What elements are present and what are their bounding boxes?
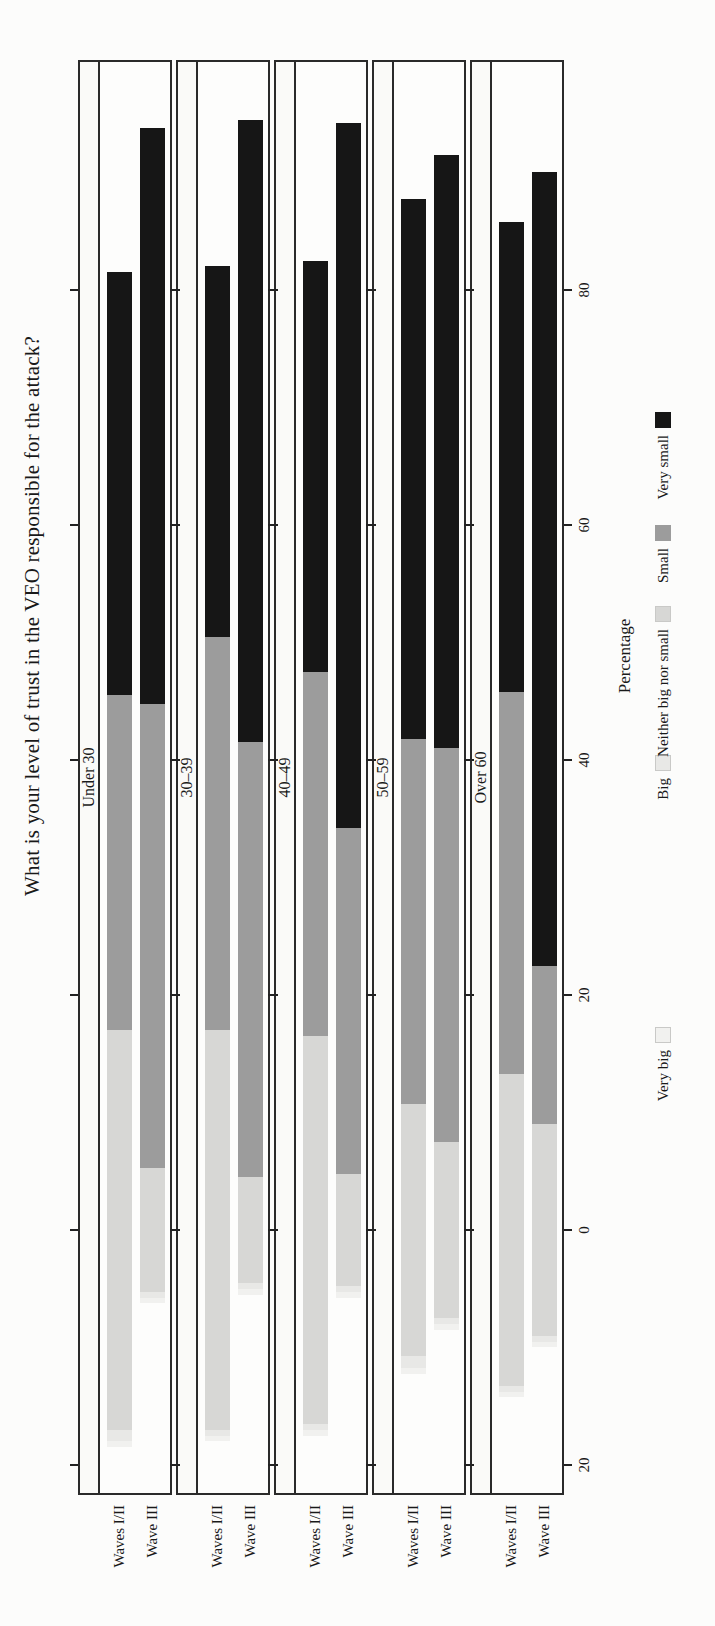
scanned-book-page: What is your level of trust in the VEO r… bbox=[0, 0, 715, 1626]
bar-segment-very-big bbox=[401, 1368, 426, 1374]
bar-segment-very-small bbox=[238, 120, 263, 743]
stacked-bar bbox=[238, 120, 263, 1295]
bar-segment-small bbox=[336, 828, 361, 1175]
legend-label: Big bbox=[655, 778, 672, 800]
bar-segment-very-big bbox=[205, 1436, 230, 1442]
stacked-bar bbox=[434, 155, 459, 1330]
panel-boundary-tick bbox=[464, 994, 474, 996]
bar-segment-very-big bbox=[303, 1430, 328, 1436]
bar-segment-neither-big-nor-small bbox=[499, 1074, 524, 1385]
panel-boundary-tick bbox=[464, 759, 474, 761]
panel-strip: 30–39 bbox=[176, 60, 198, 1495]
bar-segment-big bbox=[238, 1283, 263, 1289]
group-label: 50–59 bbox=[374, 758, 392, 798]
x-axis-tick-label: 20 bbox=[576, 1435, 593, 1495]
bar-segment-small bbox=[499, 692, 524, 1074]
bar-segment-neither-big-nor-small bbox=[238, 1177, 263, 1283]
panel-boundary-tick bbox=[464, 289, 474, 291]
group-label: 40–49 bbox=[276, 758, 294, 798]
bar-segment-very-small bbox=[499, 222, 524, 692]
panel-boundary-tick bbox=[170, 289, 180, 291]
panel-boundary-tick bbox=[366, 289, 376, 291]
x-axis-title: Percentage bbox=[615, 566, 635, 746]
x-axis-tick-label: 80 bbox=[576, 260, 593, 320]
bar-segment-very-small bbox=[205, 267, 230, 637]
panel-boundary-tick bbox=[268, 1464, 278, 1466]
x-axis-tick-bottom bbox=[564, 759, 572, 761]
panel-boundary-tick bbox=[170, 1229, 180, 1231]
bar-label: Wave III bbox=[238, 1505, 263, 1620]
legend-label: Small bbox=[655, 548, 672, 583]
bar-segment-very-small bbox=[303, 261, 328, 672]
panel-strip: 40–49 bbox=[274, 60, 296, 1495]
bar-segment-neither-big-nor-small bbox=[336, 1174, 361, 1286]
stacked-bar bbox=[336, 123, 361, 1298]
legend-swatch bbox=[655, 525, 671, 541]
bar-segment-small bbox=[401, 739, 426, 1103]
bar-segment-big bbox=[205, 1430, 230, 1436]
bar-segment-big bbox=[499, 1386, 524, 1392]
bar-segment-very-big bbox=[140, 1298, 165, 1304]
legend-label: Very small bbox=[655, 435, 672, 500]
bar-segment-small bbox=[238, 742, 263, 1177]
chart-title: What is your level of trust in the VEO r… bbox=[20, 6, 45, 1226]
legend-label: Very big bbox=[655, 1050, 672, 1101]
bar-segment-big bbox=[336, 1286, 361, 1292]
panel-boundary-tick bbox=[268, 289, 278, 291]
bar-label: Wave III bbox=[532, 1505, 557, 1620]
panel-boundary-tick bbox=[268, 759, 278, 761]
x-axis-tick-bottom bbox=[564, 524, 572, 526]
stacked-bar bbox=[140, 128, 165, 1303]
bar-segment-very-small bbox=[532, 173, 557, 966]
stacked-bar bbox=[303, 261, 328, 1436]
panel-boundary-tick bbox=[268, 1229, 278, 1231]
x-axis-tick-top bbox=[70, 1229, 78, 1231]
legend-swatch bbox=[655, 606, 671, 622]
stacked-bar bbox=[499, 222, 524, 1397]
bar-segment-big bbox=[107, 1430, 132, 1442]
group-label: Under 30 bbox=[80, 748, 98, 808]
x-axis-tick-label: 60 bbox=[576, 495, 593, 555]
bar-segment-very-big bbox=[238, 1289, 263, 1295]
panel-boundary-tick bbox=[366, 1229, 376, 1231]
x-axis-tick-top bbox=[70, 524, 78, 526]
panel-boundary-tick bbox=[268, 524, 278, 526]
panel-boundary-tick bbox=[464, 1464, 474, 1466]
x-axis-tick-bottom bbox=[564, 1229, 572, 1231]
bar-segment-very-big bbox=[499, 1392, 524, 1398]
legend-label: Neither big nor small bbox=[655, 629, 672, 757]
stacked-bar bbox=[532, 173, 557, 1348]
x-axis-tick-top bbox=[70, 994, 78, 996]
panel-boundary-tick bbox=[464, 1229, 474, 1231]
bar-segment-neither-big-nor-small bbox=[205, 1030, 230, 1430]
legend-swatch bbox=[655, 755, 671, 771]
x-axis-tick-bottom bbox=[564, 1464, 572, 1466]
x-axis-tick-bottom bbox=[564, 289, 572, 291]
x-axis-tick-label: 0 bbox=[576, 1200, 593, 1260]
bar-segment-small bbox=[434, 748, 459, 1142]
legend-swatch bbox=[655, 412, 671, 428]
panel-strip: Under 30 bbox=[78, 60, 100, 1495]
bar-segment-very-big bbox=[434, 1324, 459, 1330]
bar-segment-very-big bbox=[336, 1292, 361, 1298]
x-axis-tick-top bbox=[70, 1464, 78, 1466]
bar-segment-very-big bbox=[532, 1342, 557, 1348]
stacked-bar bbox=[401, 199, 426, 1374]
bar-segment-neither-big-nor-small bbox=[401, 1104, 426, 1357]
bar-segment-small bbox=[303, 672, 328, 1036]
panel-strip: 50–59 bbox=[372, 60, 394, 1495]
panel-boundary-tick bbox=[464, 524, 474, 526]
bar-segment-neither-big-nor-small bbox=[532, 1124, 557, 1336]
x-axis-tick-label: 40 bbox=[576, 730, 593, 790]
panel-boundary-tick bbox=[170, 994, 180, 996]
bar-label: Wave III bbox=[140, 1505, 165, 1620]
legend-swatch bbox=[655, 1027, 671, 1043]
bar-segment-very-small bbox=[336, 123, 361, 828]
bar-segment-big bbox=[303, 1424, 328, 1430]
x-axis-tick-top bbox=[70, 759, 78, 761]
bar-segment-neither-big-nor-small bbox=[140, 1168, 165, 1291]
x-axis-tick-top bbox=[70, 289, 78, 291]
x-axis-tick-bottom bbox=[564, 994, 572, 996]
panel-boundary-tick bbox=[366, 1464, 376, 1466]
panel-boundary-tick bbox=[170, 759, 180, 761]
